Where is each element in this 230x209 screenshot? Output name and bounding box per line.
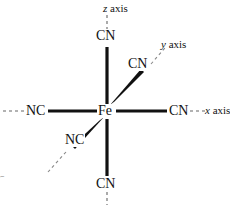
axis-label-y: y axis: [161, 39, 186, 50]
axis-label-z: z axis: [103, 3, 128, 14]
overall-charge-superscript: 4−: [0, 172, 5, 181]
bond-wedge-upper-right-y-plus: [110, 69, 144, 105]
ligand-top-label: CN: [95, 29, 116, 43]
ligand-bottom-label: CN: [95, 177, 116, 191]
axis-label-x-var: x: [205, 104, 210, 116]
axis-label-y-word: axis: [169, 38, 187, 50]
center-atom-label: Fe: [97, 104, 113, 118]
axis-dash-y-lower-left: [48, 152, 66, 172]
axis-label-z-var: z: [103, 2, 107, 14]
axis-label-x: x axis: [205, 105, 230, 116]
ligand-left-label: NC: [25, 104, 46, 118]
overall-charge-label: 4−: [0, 172, 5, 186]
ligand-upper-right-label: CN: [127, 57, 148, 71]
ligand-right-label: CN: [168, 104, 189, 118]
axis-label-y-var: y: [161, 38, 166, 50]
axis-dash-y-upper-right: [151, 48, 165, 64]
ligand-lower-left-label: NC: [64, 133, 85, 147]
axis-label-z-word: axis: [110, 2, 128, 14]
axis-label-x-word: axis: [213, 104, 230, 116]
